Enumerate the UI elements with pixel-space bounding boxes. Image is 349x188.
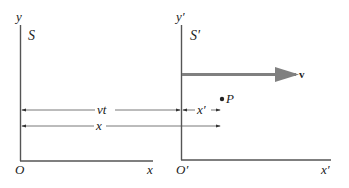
reference-frames-diagram: y S O x y′ S′ O′ x′ v P vt x′ x: [0, 0, 349, 188]
velocity-label: v: [299, 68, 305, 80]
s-prime-x-axis-label: x′: [320, 162, 330, 177]
s-y-axis-label: y: [14, 9, 22, 24]
x-distance-label: x: [95, 118, 102, 133]
s-prime-origin-label: O′: [176, 162, 188, 177]
x-prime-distance-label: x′: [196, 102, 206, 117]
s-frame-label: S: [28, 28, 35, 43]
s-prime-y-axis-label: y′: [174, 9, 185, 24]
s-origin-label: O: [15, 162, 25, 177]
frame-s-prime: [181, 25, 331, 160]
point-p-dot: [220, 97, 224, 101]
vt-label: vt: [97, 102, 107, 117]
point-p-label: P: [225, 91, 234, 106]
s-prime-frame-label: S′: [190, 28, 201, 43]
s-x-axis-label: x: [146, 162, 153, 177]
frame-s: [20, 25, 153, 161]
